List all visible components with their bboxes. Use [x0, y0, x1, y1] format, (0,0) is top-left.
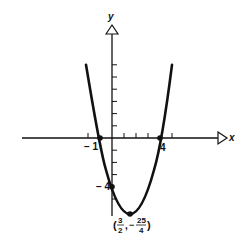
root-right-label: 4	[160, 142, 166, 153]
svg-text:(: (	[113, 219, 117, 231]
y-intercept-label: − 4	[96, 181, 111, 192]
root-left-label: − 1	[84, 141, 99, 152]
svg-text:3: 3	[118, 216, 123, 225]
svg-text:,: ,	[125, 220, 128, 231]
parabola-graph: y x − 1 4 − 4 ( 3 2 , − 25 4 )	[0, 0, 243, 251]
root-right-point	[157, 135, 163, 141]
vertex-label: ( 3 2 , − 25 4 )	[113, 216, 151, 235]
x-axis-arrow-icon	[218, 132, 227, 144]
y-axis-label: y	[107, 11, 114, 22]
x-axis-label: x	[228, 132, 235, 143]
vertex-point	[127, 211, 133, 217]
svg-text:): )	[147, 219, 151, 231]
svg-text:−: −	[129, 220, 134, 230]
y-axis-arrow-icon	[106, 25, 118, 34]
svg-text:2: 2	[118, 226, 123, 235]
root-left-point	[97, 135, 103, 141]
svg-text:25: 25	[137, 216, 146, 225]
svg-text:4: 4	[139, 226, 144, 235]
y-ticks	[112, 65, 117, 199]
